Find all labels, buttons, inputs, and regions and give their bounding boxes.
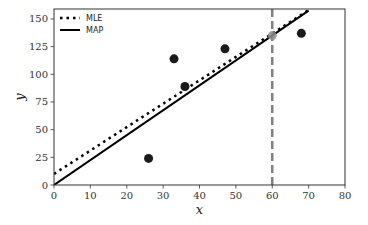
y-axis-ticks: 0255075100125150 [29, 13, 54, 190]
chart: 0255075100125150 01020304050607080 x y M… [0, 0, 368, 225]
prediction-point [268, 31, 277, 40]
x-axis-ticks: 01020304050607080 [51, 185, 352, 201]
y-tick-label: 125 [29, 41, 48, 52]
y-tick-label: 150 [29, 13, 48, 24]
y-tick-label: 100 [29, 69, 48, 80]
x-axis-label: x [196, 202, 204, 217]
x-tick-label: 80 [339, 190, 352, 201]
data-point [180, 82, 189, 91]
x-tick-label: 30 [157, 190, 170, 201]
y-axis-label: y [12, 93, 27, 102]
data-point [144, 154, 153, 163]
data-point [220, 44, 229, 53]
y-tick-label: 50 [35, 124, 48, 135]
x-tick-label: 50 [230, 190, 243, 201]
y-tick-label: 25 [35, 152, 48, 163]
x-tick-label: 60 [266, 190, 279, 201]
x-tick-label: 40 [193, 190, 206, 201]
y-tick-label: 0 [42, 180, 48, 191]
x-tick-label: 10 [84, 190, 97, 201]
y-tick-label: 75 [35, 96, 48, 107]
x-tick-label: 0 [51, 190, 57, 201]
data-point [170, 54, 179, 63]
legend: MLE MAP [60, 14, 103, 35]
legend-mle-label: MLE [86, 14, 102, 23]
plot-area [54, 9, 345, 185]
x-tick-label: 70 [302, 190, 315, 201]
x-tick-label: 20 [120, 190, 133, 201]
data-point [297, 29, 306, 38]
legend-map-label: MAP [86, 26, 103, 35]
